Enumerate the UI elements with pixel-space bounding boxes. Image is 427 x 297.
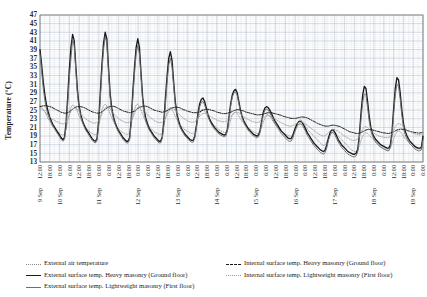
svg-text:21: 21 (30, 124, 38, 132)
svg-text:0:00: 0:00 (252, 165, 259, 176)
svg-text:18:00: 18:00 (203, 165, 210, 179)
svg-text:12:00: 12:00 (390, 165, 397, 179)
svg-text:18:00: 18:00 (85, 165, 92, 179)
svg-text:0:00: 0:00 (331, 165, 338, 176)
svg-text:18:00: 18:00 (360, 165, 367, 179)
svg-text:18:00: 18:00 (242, 165, 249, 179)
legend-item-left-1[interactable]: External surface temp. Heavy masonry (Gr… (26, 270, 194, 282)
svg-text:0:00: 0:00 (370, 165, 377, 176)
svg-text:6:00: 6:00 (341, 165, 348, 176)
svg-text:35: 35 (30, 63, 38, 71)
svg-text:31: 31 (30, 81, 38, 89)
svg-text:43: 43 (30, 29, 38, 37)
svg-text:6:00: 6:00 (301, 165, 308, 176)
svg-text:12:00: 12:00 (350, 165, 357, 179)
svg-text:39: 39 (30, 46, 38, 54)
legend-item-right-1[interactable]: Internal surface temp. Lightweight mason… (226, 270, 393, 282)
svg-text:6:00: 6:00 (184, 165, 191, 176)
chart-legend: External air temperatureExternal surface… (0, 258, 427, 297)
svg-text:18:00: 18:00 (164, 165, 171, 179)
svg-text:17: 17 (30, 141, 38, 149)
svg-text:18:00: 18:00 (282, 165, 289, 179)
svg-text:19 Sep: 19 Sep (409, 188, 416, 205)
legend-marker-icon (26, 260, 41, 268)
svg-text:0:00: 0:00 (95, 165, 102, 176)
x-axis-ticks: 12:009 Sep18:000:0010 Sep6:0012:0018:000… (36, 165, 426, 205)
legend-column-left: External air temperatureExternal surface… (26, 258, 194, 293)
legend-marker-icon (26, 283, 41, 291)
legend-item-right-0[interactable]: Internal surface temp. Heavy masonry (Gr… (226, 258, 393, 270)
svg-text:12:00: 12:00 (36, 165, 43, 179)
svg-text:12 Sep: 12 Sep (134, 188, 141, 205)
svg-text:0:00: 0:00 (409, 165, 416, 176)
svg-text:45: 45 (30, 20, 38, 28)
legend-item-left-2[interactable]: External surface temp. Lightweight mason… (26, 281, 194, 293)
svg-text:29: 29 (30, 89, 38, 97)
svg-text:6:00: 6:00 (419, 165, 426, 176)
legend-item-label: Internal surface temp. Lightweight mason… (244, 272, 393, 279)
svg-text:12:00: 12:00 (115, 165, 122, 179)
svg-text:15: 15 (30, 150, 38, 158)
svg-text:12:00: 12:00 (233, 165, 240, 179)
svg-text:27: 27 (30, 98, 38, 106)
legend-marker-icon (226, 271, 241, 279)
svg-text:6:00: 6:00 (144, 165, 151, 176)
svg-text:13 Sep: 13 Sep (174, 188, 181, 205)
svg-text:10 Sep: 10 Sep (56, 188, 63, 205)
legend-marker-icon (226, 260, 241, 268)
svg-text:18:00: 18:00 (46, 165, 53, 179)
svg-text:6:00: 6:00 (262, 165, 269, 176)
legend-item-label: External air temperature (44, 260, 108, 267)
svg-text:12:00: 12:00 (154, 165, 161, 179)
svg-text:0:00: 0:00 (56, 165, 63, 176)
plot-area: 13151719212325272931333537394143454712:0… (18, 10, 427, 220)
svg-text:0:00: 0:00 (134, 165, 141, 176)
legend-column-right: Internal surface temp. Heavy masonry (Gr… (226, 258, 393, 281)
svg-text:12:00: 12:00 (193, 165, 200, 179)
y-axis-title: Temperature (°C) (0, 0, 17, 220)
chart-screenshot: Temperature (°C) 13151719212325272931333… (0, 0, 427, 297)
legend-item-left-0[interactable]: External air temperature (26, 258, 194, 270)
svg-text:14 Sep: 14 Sep (213, 188, 220, 205)
svg-text:37: 37 (30, 55, 38, 63)
svg-text:47: 47 (30, 11, 38, 19)
svg-text:25: 25 (30, 107, 38, 115)
svg-text:33: 33 (30, 72, 38, 80)
svg-text:0:00: 0:00 (174, 165, 181, 176)
svg-text:16 Sep: 16 Sep (292, 188, 299, 205)
svg-text:9 Sep: 9 Sep (36, 188, 43, 202)
svg-text:17 Sep: 17 Sep (331, 188, 338, 205)
svg-text:0:00: 0:00 (213, 165, 220, 176)
legend-marker-icon (26, 271, 41, 279)
svg-text:18:00: 18:00 (400, 165, 407, 179)
svg-text:41: 41 (30, 37, 38, 45)
svg-text:18:00: 18:00 (321, 165, 328, 179)
svg-text:11 Sep: 11 Sep (95, 188, 102, 205)
temperature-line-chart: 13151719212325272931333537394143454712:0… (18, 10, 427, 220)
legend-item-label: External surface temp. Heavy masonry (Gr… (44, 272, 187, 279)
svg-text:19: 19 (30, 132, 38, 140)
svg-text:6:00: 6:00 (223, 165, 230, 176)
svg-text:12:00: 12:00 (75, 165, 82, 179)
svg-text:18:00: 18:00 (125, 165, 132, 179)
legend-item-label: Internal surface temp. Heavy masonry (Gr… (244, 260, 386, 267)
svg-text:18 Sep: 18 Sep (370, 188, 377, 205)
svg-text:6:00: 6:00 (66, 165, 73, 176)
svg-text:12:00: 12:00 (272, 165, 279, 179)
svg-text:6:00: 6:00 (380, 165, 387, 176)
svg-text:15 Sep: 15 Sep (252, 188, 259, 205)
svg-text:0:00: 0:00 (292, 165, 299, 176)
svg-text:23: 23 (30, 115, 38, 123)
legend-item-label: External surface temp. Lightweight mason… (44, 283, 194, 290)
svg-text:6:00: 6:00 (105, 165, 112, 176)
svg-text:12:00: 12:00 (311, 165, 318, 179)
